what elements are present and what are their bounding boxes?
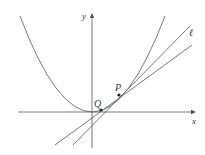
tangent-line (73, 26, 190, 145)
parabola-curve (20, 16, 165, 112)
tangent-line-label: ℓ (189, 27, 193, 38)
point-p-label: P (114, 82, 121, 93)
y-axis-label: y (81, 11, 86, 21)
diagram-canvas: x y Q P ℓ (0, 0, 205, 155)
secant-line (55, 45, 192, 145)
x-axis-label: x (191, 116, 196, 126)
point-p (117, 93, 120, 96)
point-q-label: Q (94, 98, 102, 109)
